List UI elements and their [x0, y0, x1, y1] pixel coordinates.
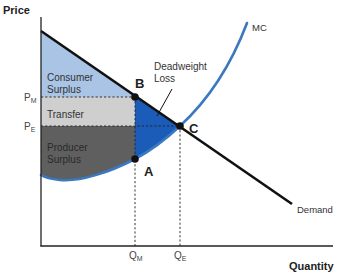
point-a-marker	[131, 155, 139, 163]
producer-surplus-label: Producer	[47, 142, 88, 153]
transfer-label: Transfer	[47, 109, 85, 120]
deadweight-loss-region	[135, 97, 180, 159]
deadweight-loss-label-2: Loss	[154, 73, 175, 84]
mc-curve-label: MC	[252, 22, 267, 33]
consumer-surplus-label: Consumer	[47, 72, 94, 83]
y-axis-title: Price	[3, 4, 30, 16]
deadweight-loss-label: Deadweight	[154, 61, 207, 72]
monopoly-diagram: Price Quantity PM PE QM QE MC Demand Con…	[0, 0, 347, 276]
point-b-marker	[131, 93, 139, 101]
demand-curve-label: Demand	[297, 204, 333, 215]
point-c-marker	[176, 122, 184, 130]
point-b-label: B	[135, 76, 144, 91]
x-axis-title: Quantity	[289, 260, 334, 272]
consumer-surplus-label-2: Surplus	[47, 84, 81, 95]
point-a-label: A	[144, 164, 154, 179]
point-c-label: C	[189, 121, 199, 136]
producer-surplus-label-2: Surplus	[47, 154, 81, 165]
deadweight-loss-pointer	[157, 89, 172, 116]
price-tick-pe: PE	[24, 121, 36, 133]
quantity-tick-qe: QE	[174, 250, 187, 262]
quantity-tick-qm: QM	[129, 250, 143, 262]
price-tick-pm: PM	[24, 92, 37, 104]
